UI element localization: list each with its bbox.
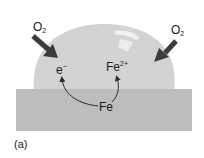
iron-label: Fe bbox=[99, 101, 113, 113]
panel-label: (a) bbox=[14, 139, 27, 150]
electron-label: e− bbox=[56, 63, 67, 76]
ferrous-ion-label: Fe2+ bbox=[106, 60, 128, 73]
oxygen-label-left: O2 bbox=[33, 21, 46, 34]
oxygen-label-right: O2 bbox=[171, 24, 184, 37]
